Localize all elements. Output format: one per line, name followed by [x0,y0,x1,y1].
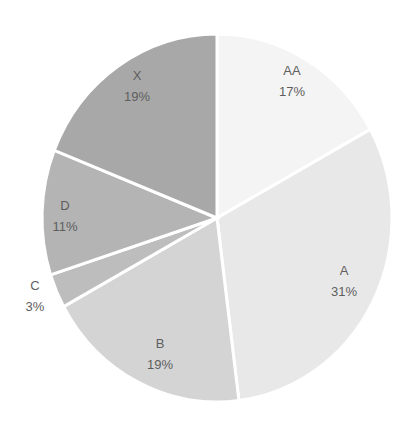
data-label-category: D [60,198,69,213]
data-label-percent: 17% [279,84,305,99]
data-label-c: C3% [26,278,45,314]
data-label-percent: 11% [52,219,77,234]
data-label-percent: 31% [331,284,357,299]
pie-chart: AA17%A31%B19%C3%D11%X19% [0,0,406,429]
data-label-percent: 19% [147,357,173,372]
data-label-category: A [340,263,349,278]
data-label-category: AA [283,63,301,78]
data-label-category: X [133,68,142,83]
data-label-category: C [30,278,39,293]
data-label-category: B [156,336,165,351]
data-label-percent: 19% [124,89,150,104]
data-label-percent: 3% [26,299,45,314]
pie-slices [42,34,392,402]
